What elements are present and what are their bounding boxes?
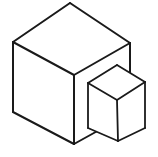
small-cube-edge-center-vertical — [117, 100, 118, 141]
isometric-cubes-illustration — [0, 0, 158, 157]
drawing-canvas: Two isometric cubes line drawing — [0, 0, 158, 157]
